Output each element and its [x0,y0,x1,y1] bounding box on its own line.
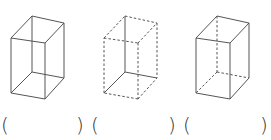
cuboid-edge [230,23,249,43]
cuboid-edge [196,72,217,93]
answer-blank-1-close: ) [76,114,84,136]
cuboid-edge [138,23,157,43]
box-3 [196,16,249,99]
cuboid-edge [217,16,249,23]
cuboid-edge [104,38,138,43]
cuboid-edge [11,16,32,38]
box-2 [104,16,157,99]
box-1 [11,16,64,99]
cuboid-edge [104,93,138,99]
cuboid-edge [125,16,157,23]
cuboid-edge [32,72,64,78]
cuboid-figures [0,0,271,140]
cuboid-edge [11,72,32,93]
cuboid-edge [138,78,157,99]
answer-blank-2-open: ( [91,114,99,136]
cuboid-edge [11,93,45,99]
cuboid-edge [230,78,249,99]
cuboid-edge [196,93,230,99]
cuboid-edge [32,16,64,23]
answer-blank-3-open: ( [183,114,191,136]
cuboid-edge [125,72,157,78]
answer-blank-2-close: ) [168,114,176,136]
answer-blank-3-close: ) [260,114,268,136]
cuboid-edge [45,78,64,99]
cuboid-edge [217,72,249,78]
cuboid-edge [104,16,125,38]
cuboid-edge [11,38,45,43]
cuboid-edge [104,72,125,93]
cuboid-edge [196,38,230,43]
cuboid-edge [45,23,64,43]
answer-blank-1-open: ( [1,114,9,136]
cuboid-edge [196,16,217,38]
